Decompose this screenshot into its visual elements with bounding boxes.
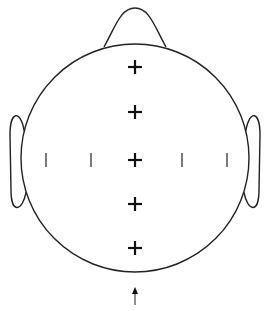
eeg-head-diagram: [0, 0, 266, 311]
nose-outline: [104, 8, 166, 47]
plus-marker-icon: [128, 60, 142, 74]
right-ear-icon: [244, 116, 260, 208]
plus-marker-icon: [128, 197, 142, 211]
up-arrow-icon: [132, 287, 138, 305]
plus-marker-icon: [128, 105, 142, 119]
plus-marker-icon: [128, 241, 142, 255]
left-ear-icon: [10, 116, 26, 208]
midline-electrode-markers: [128, 60, 142, 255]
nose-icon: [104, 8, 166, 47]
plus-marker-icon: [128, 153, 142, 167]
